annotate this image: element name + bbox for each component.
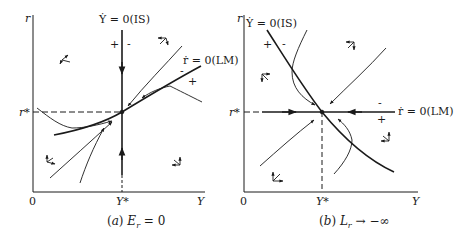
direction-indicator-se-a: [172, 157, 180, 165]
trajectory-upper-right-a: [128, 46, 182, 106]
direction-indicator-ne-a: [158, 38, 168, 45]
x-axis-label-a: Y: [197, 196, 204, 207]
y-star-label-b: Y*: [316, 196, 329, 207]
y-axis-label-a: r: [25, 13, 30, 24]
trajectory-upper-right-b: [330, 48, 386, 104]
caption-a-suffix: ): [119, 214, 124, 228]
lm-sign-above-a: -: [180, 66, 184, 77]
is-curve-label-a: Ẏ = 0(IS): [99, 14, 150, 25]
direction-indicator-nw-b: [262, 74, 270, 82]
is-curve-b: [267, 30, 394, 172]
lm-curve-label-a: ṙ = 0(LM): [183, 55, 239, 66]
lm-curve-a: [54, 66, 201, 135]
phase-diagrams: [0, 0, 469, 243]
lm-sign-below-a: +: [188, 76, 197, 87]
is-curve-label-b: Ẏ = 0(IS): [246, 18, 297, 29]
is-sign-left-b: +: [263, 39, 272, 50]
r-star-label-a: r*: [19, 107, 30, 118]
caption-a-var: E: [127, 214, 136, 228]
origin-label-b: 0: [240, 196, 247, 207]
trajectory-lower-left-b: [260, 120, 314, 166]
r-star-label-b: r*: [229, 107, 240, 118]
caption-b-rel: → −∞: [356, 214, 390, 228]
caption-b: (b) Lr → −∞: [319, 215, 389, 230]
lm-curve-label-b: ṙ = 0(LM): [398, 106, 454, 117]
is-sign-left-a: +: [110, 39, 119, 50]
direction-indicator-sw-a: [47, 155, 55, 164]
caption-a-sub: r: [136, 221, 140, 230]
caption-b-suffix: ): [331, 214, 336, 228]
equilibrium-point-a: [120, 110, 124, 114]
direction-indicator-ne-b: [346, 42, 354, 50]
direction-indicator-sw-b: [273, 172, 283, 181]
caption-a-letter: a: [112, 214, 119, 228]
trajectory-lower-right-b: [334, 119, 352, 174]
is-sign-right-a: -: [127, 39, 131, 50]
y-star-label-a: Y*: [116, 196, 129, 207]
lm-sign-above-b: -: [378, 98, 382, 109]
direction-indicator-nw-a: [60, 55, 70, 64]
caption-b-sub: r: [348, 221, 352, 230]
trajectory-lower-a: [80, 128, 104, 183]
direction-indicator-se-b: [381, 132, 389, 141]
caption-b-var: L: [340, 214, 348, 228]
lm-sign-below-b: +: [377, 114, 386, 125]
trajectory-upper-left-b: [292, 30, 315, 105]
x-axis-label-b: Y: [412, 196, 419, 207]
trajectory-left-a: [37, 108, 112, 128]
y-axis-label-b: r: [237, 13, 242, 24]
caption-a: (a) Er = 0: [107, 215, 165, 230]
origin-label-a: 0: [29, 196, 36, 207]
caption-a-rel: = 0: [144, 214, 166, 228]
equilibrium-point-b: [320, 110, 324, 114]
is-sign-right-b: -: [282, 39, 286, 50]
